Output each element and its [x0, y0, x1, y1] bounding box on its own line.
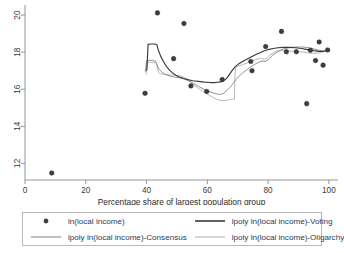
legend-label-voting: lpoly ln(local income)-Voting: [232, 217, 333, 226]
legend-label-scatter: ln(local income): [68, 217, 125, 226]
chart-figure: 1214161820020406080100Percentage share o…: [0, 0, 343, 205]
x-tick-label: 100: [322, 186, 336, 195]
chart-canvas: 1214161820020406080100Percentage share o…: [0, 0, 343, 205]
x-tick-label: 80: [264, 186, 274, 195]
legend-entry-scatter: ln(local income): [23, 216, 187, 226]
scatter-point: [220, 77, 225, 82]
scatter-point: [313, 58, 318, 63]
legend-line-key-consensus: [29, 232, 63, 242]
scatter-point: [304, 101, 309, 106]
legend-label-consensus: lpoly ln(local income)-Consensus: [68, 233, 187, 242]
scatter-point: [49, 171, 54, 176]
x-tick-label: 60: [203, 186, 213, 195]
scatter-point: [308, 48, 313, 53]
scatter-point: [189, 84, 194, 89]
x-tick-label: 0: [23, 186, 28, 195]
y-tick-label: 16: [13, 84, 22, 94]
x-tick-label: 20: [81, 186, 91, 195]
scatter-point: [155, 11, 160, 16]
scatter-point: [250, 68, 255, 73]
scatter-point: [204, 89, 209, 94]
scatter-point: [263, 44, 268, 49]
scatter-point: [279, 29, 284, 34]
legend-grid: ln(local income) lpoly ln(local income)-…: [23, 213, 321, 245]
legend-entry-oligarchy: lpoly ln(local income)-Oligarchy: [187, 232, 344, 242]
scatter-point: [294, 50, 299, 55]
y-tick-label: 12: [13, 158, 22, 168]
legend-label-oligarchy: lpoly ln(local income)-Oligarchy: [232, 233, 344, 242]
scatter-point: [325, 48, 330, 53]
scatter-point: [143, 91, 148, 96]
legend-line-key-oligarchy: [193, 232, 227, 242]
scatter-point: [317, 40, 322, 45]
x-axis-title: Percentage share of largest population g…: [98, 197, 266, 205]
chart-legend: ln(local income) lpoly ln(local income)-…: [22, 212, 322, 246]
scatter-point: [171, 56, 176, 61]
legend-marker-key: [29, 216, 63, 226]
scatter-point: [284, 50, 289, 55]
series-line-lpoly-ln-local-income-consensus: [145, 47, 329, 94]
y-tick-label: 18: [13, 47, 22, 57]
x-tick-label: 40: [142, 186, 152, 195]
legend-entry-voting: lpoly ln(local income)-Voting: [187, 216, 344, 226]
y-tick-label: 14: [13, 121, 22, 131]
scatter-point: [182, 21, 187, 26]
legend-entry-consensus: lpoly ln(local income)-Consensus: [23, 232, 187, 242]
scatter-point: [248, 59, 253, 64]
scatter-point: [321, 63, 326, 68]
legend-line-key-voting: [193, 216, 227, 226]
y-tick-label: 20: [13, 10, 22, 20]
